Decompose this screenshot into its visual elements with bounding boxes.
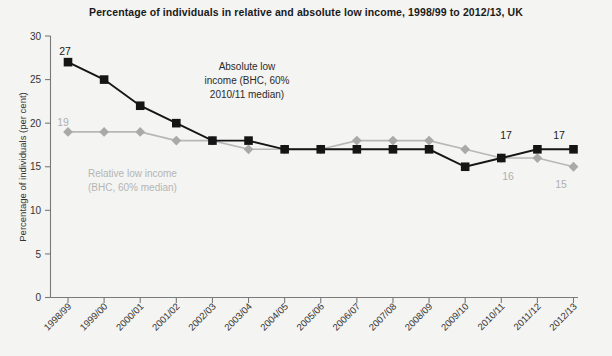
x-tick-labels: 1998/991999/002000/012001/022002/032003/… bbox=[41, 301, 579, 333]
data-point bbox=[497, 154, 506, 163]
data-point bbox=[388, 136, 398, 146]
x-tick-label: 2010/11 bbox=[475, 301, 507, 333]
x-tick-label: 2005/06 bbox=[294, 301, 326, 333]
x-tick-label: 2007/08 bbox=[366, 301, 398, 333]
x-tick-label: 2004/05 bbox=[258, 301, 290, 333]
data-point bbox=[171, 136, 181, 146]
absolute-annotation-line-1: Absolute low bbox=[219, 61, 276, 72]
relative-annotation-line-1: Relative low income bbox=[88, 168, 177, 179]
x-tick-label: 2012/13 bbox=[547, 301, 579, 333]
x-tick-label: 2003/04 bbox=[222, 301, 254, 333]
data-point bbox=[532, 153, 542, 163]
data-point bbox=[425, 145, 434, 154]
data-point bbox=[244, 136, 253, 145]
absolute-annotation-line-2: income (BHC, 60% bbox=[204, 75, 289, 86]
y-axis: 051015202530 Percentage of individuals (… bbox=[17, 31, 51, 304]
data-point bbox=[280, 145, 289, 154]
y-tick-label: 25 bbox=[30, 74, 42, 85]
data-point bbox=[208, 136, 217, 145]
y-tick-label: 20 bbox=[30, 118, 42, 129]
x-tick-label: 2001/02 bbox=[150, 301, 182, 333]
data-label-absolute-2012: 17 bbox=[553, 129, 565, 141]
data-point bbox=[100, 75, 109, 84]
x-tick-label: 2008/09 bbox=[402, 301, 434, 333]
data-point bbox=[353, 145, 362, 154]
x-tick-label: 2002/03 bbox=[186, 301, 218, 333]
data-point bbox=[460, 144, 470, 154]
y-tick-labels: 051015202530 bbox=[30, 31, 42, 304]
data-label-relative-2011: 16 bbox=[502, 170, 514, 182]
relative-annotation-line-2: (BHC, 60% median) bbox=[88, 182, 177, 193]
data-point bbox=[424, 136, 434, 146]
data-point bbox=[352, 136, 362, 146]
data-point bbox=[99, 127, 109, 137]
absolute-annotation: Absolute low income (BHC, 60% 2010/11 me… bbox=[204, 61, 289, 100]
y-tick-label: 5 bbox=[35, 249, 41, 260]
data-point bbox=[136, 101, 145, 110]
data-point bbox=[244, 144, 254, 154]
y-tick-label: 0 bbox=[35, 292, 41, 303]
x-tick-label: 1999/00 bbox=[77, 301, 109, 333]
data-label-absolute-2011: 17 bbox=[500, 129, 512, 141]
absolute-annotation-line-3: 2010/11 median) bbox=[210, 89, 284, 100]
line-chart: 051015202530 Percentage of individuals (… bbox=[0, 0, 612, 356]
data-point bbox=[569, 162, 579, 172]
x-tick-label: 2006/07 bbox=[330, 301, 362, 333]
data-point bbox=[63, 127, 73, 137]
data-label-relative-2012: 15 bbox=[555, 178, 567, 190]
chart-page: Percentage of individuals in relative an… bbox=[0, 0, 612, 356]
y-tick-label: 30 bbox=[30, 31, 42, 42]
data-point bbox=[172, 119, 181, 128]
y-tick-label: 15 bbox=[30, 161, 42, 172]
y-tick-label: 10 bbox=[30, 205, 42, 216]
data-point bbox=[533, 145, 542, 154]
x-axis: 1998/991999/002000/012001/022002/032003/… bbox=[41, 298, 579, 333]
data-point bbox=[316, 145, 325, 154]
y-axis-title: Percentage of individuals (per cent) bbox=[17, 92, 28, 241]
data-point bbox=[135, 127, 145, 137]
x-tick-label: 2000/01 bbox=[114, 301, 146, 333]
data-point bbox=[389, 145, 398, 154]
x-tick-label: 2011/12 bbox=[511, 301, 543, 333]
relative-annotation: Relative low income (BHC, 60% median) bbox=[88, 168, 177, 193]
data-label-relative-1999: 19 bbox=[57, 116, 69, 128]
y-tick-marks bbox=[45, 36, 51, 298]
data-point bbox=[64, 58, 73, 67]
data-point bbox=[569, 145, 578, 154]
data-label-absolute-1998: 27 bbox=[59, 45, 71, 57]
x-tick-label: 2009/10 bbox=[439, 301, 471, 333]
data-point bbox=[461, 162, 470, 171]
x-tick-label: 1998/99 bbox=[41, 301, 73, 333]
